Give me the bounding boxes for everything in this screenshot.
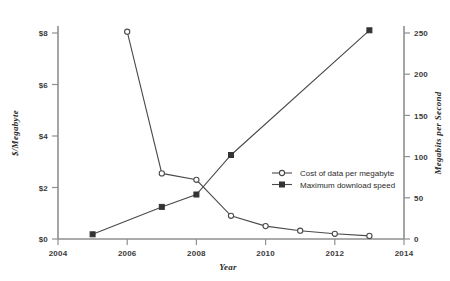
right-tick-label-150: 150	[414, 112, 428, 121]
right-tick-label-0: 0	[414, 235, 419, 244]
series-maximum-download-speed	[90, 28, 372, 237]
left-tick-label-4: $4	[39, 132, 49, 141]
cost-marker-2010	[263, 224, 268, 229]
x-axis-ticks: 2004 2006 2008 2010 2012 2014	[49, 239, 414, 258]
legend-item-speed[interactable]: Maximum download speed	[272, 181, 395, 190]
left-tick-label-2: $2	[39, 184, 49, 193]
cost-marker-2007	[159, 171, 164, 176]
right-tick-label-100: 100	[414, 153, 428, 162]
cost-marker-2009	[228, 213, 233, 218]
x-tick-label-2004: 2004	[49, 249, 68, 258]
right-axis-ticks: 0 50 100 150 200 250	[404, 29, 428, 244]
speed-marker-2009	[229, 153, 234, 158]
right-tick-label-250: 250	[414, 29, 428, 38]
speed-marker-2007	[159, 204, 164, 209]
cost-marker-2008	[194, 177, 199, 182]
cost-marker-2011	[298, 228, 303, 233]
speed-marker-2005	[90, 232, 95, 237]
speed-marker-2013	[367, 28, 372, 33]
speed-marker-2008	[194, 192, 199, 197]
left-tick-label-0: $0	[39, 235, 49, 244]
legend-swatch-speed-marker	[280, 182, 285, 187]
x-axis-title: Year	[219, 262, 237, 272]
legend-swatch-cost-marker	[279, 170, 284, 175]
cost-marker-2013	[367, 233, 372, 238]
cost-marker-2006	[125, 29, 130, 34]
axes-group	[58, 26, 404, 239]
x-tick-label-2006: 2006	[118, 249, 137, 258]
chart-legend: Cost of data per megabyte Maximum downlo…	[272, 169, 395, 190]
chart-container: $0 $2 $4 $6 $8 0 50 100 150 200 250	[0, 0, 450, 281]
x-tick-label-2012: 2012	[325, 249, 344, 258]
left-tick-label-8: $8	[39, 29, 49, 38]
x-tick-label-2014: 2014	[395, 249, 414, 258]
x-tick-label-2010: 2010	[256, 249, 275, 258]
x-tick-label-2008: 2008	[187, 249, 206, 258]
legend-item-cost[interactable]: Cost of data per megabyte	[272, 169, 395, 178]
left-tick-label-6: $6	[39, 81, 49, 90]
legend-label-speed: Maximum download speed	[300, 181, 395, 190]
right-tick-label-200: 200	[414, 70, 428, 79]
legend-label-cost: Cost of data per megabyte	[300, 169, 395, 178]
y-axis-title: $/Megabyte	[10, 110, 20, 157]
dual-axis-line-chart: $0 $2 $4 $6 $8 0 50 100 150 200 250	[0, 0, 450, 281]
y2-axis-title: Megabits per Second	[433, 91, 443, 175]
right-tick-label-50: 50	[414, 194, 424, 203]
cost-marker-2012	[332, 231, 337, 236]
left-axis-ticks: $0 $2 $4 $6 $8	[39, 29, 58, 244]
